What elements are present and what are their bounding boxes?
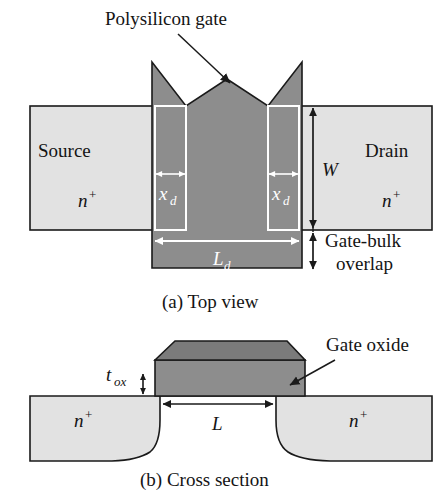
xd-right-subscript: d — [283, 193, 290, 208]
source-doping-superscript: + — [89, 187, 96, 202]
tox-subscript: ox — [114, 374, 127, 389]
figure-canvas: Source n + Drain n + x d x d W L d Gate-… — [0, 0, 448, 502]
gate-bulk-overlap-line1: Gate-bulk — [325, 230, 401, 251]
tox-label: t — [106, 364, 112, 385]
ld-dimension-label: L — [212, 248, 224, 269]
xd-left-subscript: d — [170, 193, 177, 208]
cross-left-doping-label: n — [74, 410, 84, 431]
substrate-diffusion-body — [30, 396, 160, 461]
xd-left-label: x — [158, 183, 168, 204]
gate-oxide-stack-top — [155, 341, 305, 360]
drain-doping-superscript: + — [393, 187, 400, 202]
cross-right-doping-label: n — [349, 410, 359, 431]
cross-right-doping-superscript: + — [360, 407, 367, 422]
cross-left-doping-superscript: + — [85, 407, 92, 422]
polysilicon-gate-label: Polysilicon gate — [105, 8, 227, 29]
gate-oxide-label: Gate oxide — [326, 334, 409, 355]
polysilicon-gate-shape — [152, 62, 302, 268]
mosfet-dimensions-figure: Source n + Drain n + x d x d W L d Gate-… — [0, 0, 448, 502]
drain-doping-label: n — [382, 190, 392, 211]
polysilicon-gate-leader — [178, 34, 230, 83]
gate-bulk-overlap-line2: overlap — [336, 253, 393, 274]
top-view-caption: (a) Top view — [162, 291, 259, 313]
drain-region — [296, 106, 432, 230]
source-region — [30, 106, 166, 230]
ld-dimension-subscript: d — [224, 258, 231, 273]
source-doping-label: n — [78, 190, 88, 211]
source-label: Source — [38, 140, 91, 161]
xd-right-label: x — [271, 183, 281, 204]
cross-section-caption: (b) Cross section — [140, 469, 269, 491]
drain-label: Drain — [365, 140, 409, 161]
w-dimension-label: W — [322, 159, 340, 180]
gate-oxide-stack-body — [155, 360, 305, 396]
channel-length-label: L — [211, 413, 223, 434]
